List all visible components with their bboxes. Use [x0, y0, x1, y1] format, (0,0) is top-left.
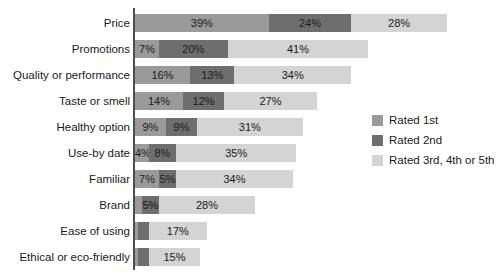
legend-item: Rated 2nd — [372, 132, 503, 148]
bar-segment: 34% — [176, 170, 293, 188]
chart-bar-row: Promotions7%20%41% — [0, 36, 503, 62]
bar-segment: 14% — [135, 92, 183, 110]
bar-segment: 24% — [269, 14, 351, 32]
chart-bar-row: Price39%24%28% — [0, 10, 503, 36]
bar-segment-value: 9% — [166, 118, 197, 136]
bar-segment: 28% — [159, 196, 255, 214]
bar-segment-value: 17% — [149, 222, 207, 240]
stacked-bar-chart: Price39%24%28%Promotions7%20%41%Quality … — [0, 0, 503, 278]
bar-segment-value: 7% — [135, 40, 159, 58]
bar-segment: 34% — [234, 66, 351, 84]
bar-segment-value: 9% — [135, 118, 166, 136]
legend-label: Rated 2nd — [389, 132, 442, 148]
bar-segment: 17% — [149, 222, 207, 240]
chart-bar-row: Ease of using17% — [0, 218, 503, 244]
legend-item: Rated 1st — [372, 112, 503, 128]
bar-segment: 39% — [135, 14, 269, 32]
stacked-bar: 9%9%31% — [135, 118, 303, 136]
category-label: Promotions — [72, 36, 130, 62]
chart-bar-row: Brand5%28% — [0, 192, 503, 218]
category-label: Healthy option — [56, 114, 130, 140]
bar-segment: 13% — [190, 66, 235, 84]
legend-item: Rated 3rd, 4th or 5th — [372, 152, 503, 168]
category-label: Taste or smell — [59, 88, 130, 114]
chart-bar-row: Taste or smell14%12%27% — [0, 88, 503, 114]
bar-segment: 20% — [159, 40, 228, 58]
chart-bar-row: Quality or performance16%13%34% — [0, 62, 503, 88]
bar-segment-value: 20% — [159, 40, 228, 58]
legend-label: Rated 3rd, 4th or 5th — [389, 152, 494, 168]
bar-segment: 41% — [228, 40, 369, 58]
bar-segment: 4% — [135, 144, 149, 162]
category-label: Familiar — [89, 166, 130, 192]
bar-segment: 16% — [135, 66, 190, 84]
stacked-bar: 15% — [135, 248, 200, 266]
bar-segment-value: 34% — [234, 66, 351, 84]
bar-segment-value: 16% — [135, 66, 190, 84]
chart-bar-row: Ethical or eco-friendly15% — [0, 244, 503, 270]
bar-segment-value: 39% — [135, 14, 269, 32]
bar-segment: 31% — [197, 118, 303, 136]
bar-segment: 9% — [166, 118, 197, 136]
stacked-bar: 7%5%34% — [135, 170, 293, 188]
bar-segment: 15% — [149, 248, 200, 266]
stacked-bar: 4%8%35% — [135, 144, 296, 162]
bar-segment-value: 34% — [176, 170, 293, 188]
chart-legend: Rated 1stRated 2ndRated 3rd, 4th or 5th — [372, 112, 503, 172]
bar-segment: 27% — [224, 92, 317, 110]
bar-segment-value: 28% — [351, 14, 447, 32]
bar-segment-value: 7% — [135, 170, 159, 188]
bar-segment: 5% — [142, 196, 159, 214]
stacked-bar: 5%28% — [135, 196, 255, 214]
bar-segment-value: 41% — [228, 40, 369, 58]
category-label: Use-by date — [68, 140, 130, 166]
stacked-bar: 7%20%41% — [135, 40, 368, 58]
bar-segment: 5% — [159, 170, 176, 188]
legend-swatch-icon — [372, 155, 383, 166]
category-label: Brand — [99, 192, 130, 218]
bar-segment-value: 15% — [149, 248, 200, 266]
bar-segment-value: 5% — [159, 170, 176, 188]
bar-segment: 7% — [135, 40, 159, 58]
legend-label: Rated 1st — [389, 112, 438, 128]
stacked-bar: 39%24%28% — [135, 14, 447, 32]
legend-swatch-icon — [372, 115, 383, 126]
bar-segment-value: 12% — [183, 92, 224, 110]
bar-segment-value: 5% — [142, 196, 159, 214]
bar-segment — [138, 222, 148, 240]
bar-segment-value: 13% — [190, 66, 235, 84]
stacked-bar: 14%12%27% — [135, 92, 317, 110]
bar-segment: 8% — [149, 144, 176, 162]
bar-segment-value: 14% — [135, 92, 183, 110]
category-label: Price — [104, 10, 130, 36]
bar-segment-value: 28% — [159, 196, 255, 214]
legend-swatch-icon — [372, 135, 383, 146]
stacked-bar: 16%13%34% — [135, 66, 351, 84]
category-label: Quality or performance — [13, 62, 130, 88]
bar-segment — [138, 248, 148, 266]
bar-segment: 28% — [351, 14, 447, 32]
bar-segment: 7% — [135, 170, 159, 188]
bar-segment-value: 31% — [197, 118, 303, 136]
category-label: Ease of using — [60, 218, 130, 244]
bar-segment-value: 8% — [149, 144, 176, 162]
bar-segment-value: 4% — [135, 144, 149, 162]
category-label: Ethical or eco-friendly — [19, 244, 130, 270]
bar-segment-value: 24% — [269, 14, 351, 32]
bar-segment: 35% — [176, 144, 296, 162]
bar-segment: 9% — [135, 118, 166, 136]
bar-segment: 12% — [183, 92, 224, 110]
bar-segment-value: 27% — [224, 92, 317, 110]
bar-segment — [135, 196, 142, 214]
stacked-bar: 17% — [135, 222, 207, 240]
bar-segment-value: 35% — [176, 144, 296, 162]
